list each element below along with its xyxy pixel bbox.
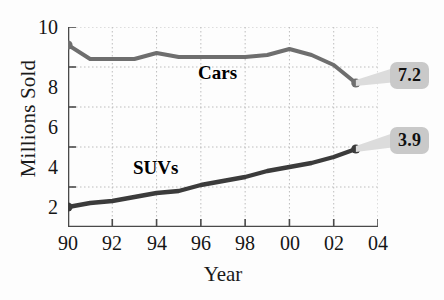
x-axis-tick-label: 92 bbox=[91, 232, 133, 255]
value-callout-suvs: 3.9 bbox=[390, 127, 429, 154]
series-label-cars: Cars bbox=[198, 62, 237, 84]
x-axis-tick-label: 90 bbox=[47, 232, 89, 255]
x-axis-tick-label: 04 bbox=[357, 232, 399, 255]
series-label-suvs: SUVs bbox=[133, 157, 178, 179]
y-axis-tick-label: 2 bbox=[18, 196, 58, 219]
plot-svg bbox=[68, 27, 378, 227]
value-callout-cars: 7.2 bbox=[390, 62, 429, 89]
y-axis-tick-label: 4 bbox=[18, 156, 58, 179]
x-axis-tick-label: 02 bbox=[313, 232, 355, 255]
x-axis-tick-label: 98 bbox=[224, 232, 266, 255]
plot-area bbox=[68, 27, 378, 227]
y-axis-tick-label: 10 bbox=[18, 16, 58, 39]
x-axis-tick-label: 94 bbox=[136, 232, 178, 255]
line-chart: Millions Sold Year 2 4 6 8 10 90 92 94 9… bbox=[0, 0, 444, 300]
y-axis-tick-label: 6 bbox=[18, 116, 58, 139]
x-axis-tick-label: 00 bbox=[269, 232, 311, 255]
x-axis-tick-label: 96 bbox=[180, 232, 222, 255]
x-axis-title: Year bbox=[68, 262, 378, 287]
y-axis-tick-label: 8 bbox=[18, 76, 58, 99]
